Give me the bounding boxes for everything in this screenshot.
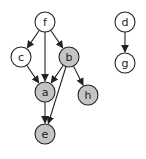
node-label: a — [42, 86, 49, 99]
directed-graph: fcbahedg — [0, 0, 146, 159]
node-e: e — [35, 124, 55, 144]
node-b: b — [59, 47, 79, 67]
edge-b-h — [73, 66, 83, 85]
node-label: h — [85, 89, 92, 102]
node-g: g — [115, 53, 135, 73]
edge-c-a — [27, 65, 39, 83]
node-label: g — [122, 57, 129, 70]
node-a: a — [35, 82, 55, 102]
edges-layer — [27, 30, 125, 123]
node-label: b — [66, 51, 73, 64]
node-h: h — [78, 85, 98, 105]
node-label: e — [42, 128, 49, 141]
edge-f-c — [27, 30, 39, 48]
node-c: c — [11, 47, 31, 67]
node-d: d — [115, 12, 135, 32]
edge-f-b — [51, 30, 63, 48]
node-f: f — [35, 12, 55, 32]
nodes-layer: fcbahedg — [11, 12, 135, 144]
node-label: d — [122, 16, 129, 29]
node-label: c — [18, 51, 24, 64]
